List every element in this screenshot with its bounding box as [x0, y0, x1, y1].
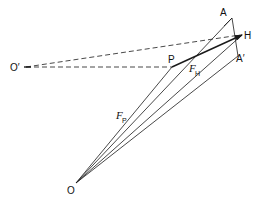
label-fp-sub: P	[122, 117, 127, 124]
line-o-a	[76, 18, 232, 183]
label-h: H	[244, 30, 251, 41]
line-o-p	[76, 67, 172, 183]
label-a-prime: A′	[236, 53, 245, 64]
line-a-aprime-top	[224, 18, 232, 26]
label-o: O	[67, 185, 75, 196]
label-o-prime: O′	[10, 62, 20, 73]
label-p: P	[168, 54, 175, 65]
vector-fh-arrow	[172, 35, 242, 67]
label-a: A	[220, 7, 227, 18]
label-fh-sub: H	[195, 70, 200, 77]
force-diagram: O O′ P A H A′ F H F P	[0, 0, 261, 203]
line-o-h	[76, 35, 242, 183]
line-o-aprime	[76, 56, 238, 183]
